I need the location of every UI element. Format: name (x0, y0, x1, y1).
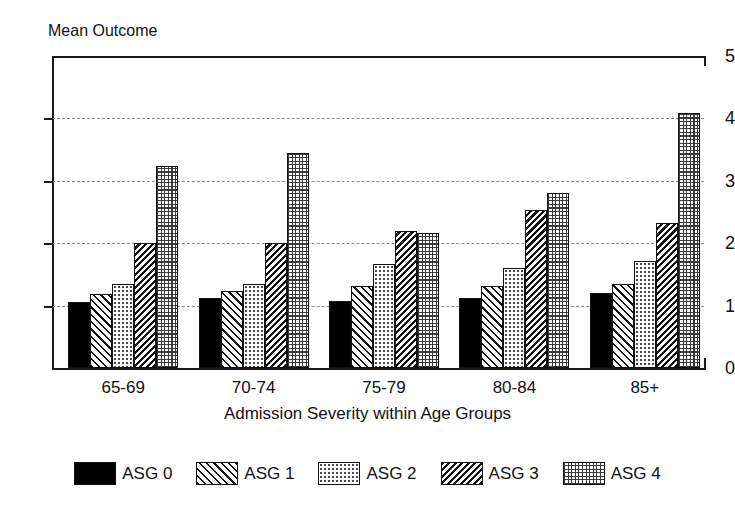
legend-item-asg-4[interactable]: ASG 4 (563, 462, 661, 485)
bar-asg-4-70-74 (287, 153, 309, 368)
x-tick-label-65-69: 65-69 (101, 378, 144, 398)
bar-asg-2-80-84 (503, 268, 525, 368)
bar-asg-0-70-74 (199, 298, 221, 368)
legend-swatch-icon (563, 462, 605, 485)
legend-item-asg-0[interactable]: ASG 0 (74, 462, 172, 485)
bar-asg-4-65-69 (156, 166, 178, 368)
bar-asg-1-70-74 (221, 291, 243, 368)
bar-group (459, 56, 569, 368)
bar-asg-1-80-84 (481, 286, 503, 368)
legend-swatch-icon (196, 462, 238, 485)
bar-asg-3-65-69 (134, 243, 156, 368)
bar-asg-4-80-84 (547, 193, 569, 368)
legend-swatch-icon (441, 462, 483, 485)
bar-asg-2-70-74 (243, 284, 265, 368)
bar-asg-1-65-69 (90, 294, 112, 368)
bar-asg-2-75-79 (373, 264, 395, 368)
bar-group (590, 56, 700, 368)
bar-asg-3-70-74 (265, 243, 287, 368)
bar-asg-2-85+ (634, 261, 656, 368)
bar-asg-3-80-84 (525, 210, 547, 368)
legend-item-asg-2[interactable]: ASG 2 (318, 462, 416, 485)
legend-label: ASG 4 (611, 464, 661, 484)
bar-asg-1-85+ (612, 284, 634, 368)
legend-label: ASG 0 (122, 464, 172, 484)
y-axis-title: Mean Outcome (48, 22, 157, 40)
legend-swatch-icon (74, 462, 116, 485)
bar-asg-0-65-69 (68, 302, 90, 368)
x-axis-line (52, 368, 706, 370)
x-tick-label-70-74: 70-74 (232, 378, 275, 398)
legend-swatch-icon (318, 462, 360, 485)
bar-asg-4-75-79 (417, 233, 439, 368)
legend-item-asg-3[interactable]: ASG 3 (441, 462, 539, 485)
bar-asg-0-80-84 (459, 298, 481, 369)
bar-group (329, 56, 439, 368)
bar-asg-3-85+ (656, 223, 678, 368)
bar-asg-4-85+ (678, 113, 700, 368)
bar-chart: Mean Outcome 543210 65-6970-7475-7980-84… (0, 0, 735, 512)
legend-label: ASG 3 (489, 464, 539, 484)
legend-label: ASG 2 (366, 464, 416, 484)
x-tick-label-75-79: 75-79 (362, 378, 405, 398)
x-axis-title: Admission Severity within Age Groups (0, 404, 735, 424)
bars-layer (52, 56, 704, 368)
bar-asg-2-65-69 (112, 284, 134, 368)
bar-group (199, 56, 309, 368)
bar-group (68, 56, 178, 368)
bar-asg-0-75-79 (329, 301, 351, 368)
bar-asg-3-75-79 (395, 231, 417, 368)
legend: ASG 0ASG 1ASG 2ASG 3ASG 4 (0, 462, 735, 485)
legend-label: ASG 1 (244, 464, 294, 484)
legend-item-asg-1[interactable]: ASG 1 (196, 462, 294, 485)
x-tick-label-80-84: 80-84 (493, 378, 536, 398)
bar-asg-0-85+ (590, 293, 612, 368)
bar-asg-1-75-79 (351, 286, 373, 368)
x-tick-label-85+: 85+ (630, 378, 659, 398)
